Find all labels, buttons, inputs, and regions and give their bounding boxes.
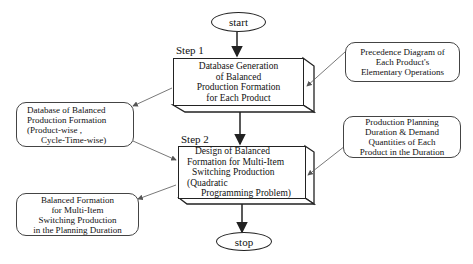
- step2-line: Design of Balanced: [187, 146, 305, 157]
- io-line: in the Planning Duration: [17, 225, 138, 235]
- step2-line: (Quadratic: [187, 178, 305, 189]
- stop-terminal: stop: [216, 232, 272, 251]
- io-line: Switching Production: [17, 215, 138, 225]
- io-line: Production Formation: [27, 115, 133, 125]
- io-line: Balanced Formation: [17, 195, 138, 205]
- start-label: start: [229, 16, 248, 28]
- io-line: Quantities of Each: [344, 137, 460, 147]
- step2-process-box: Design of Balanced Formation for Multi-I…: [178, 146, 306, 199]
- io-line: Duration & Demand: [344, 127, 460, 137]
- io-line: Database of Balanced: [27, 105, 133, 115]
- arrow-step2-to-output: [138, 185, 176, 199]
- io-line: Each Product's: [346, 57, 459, 67]
- step1-line: Production Formation: [174, 82, 303, 93]
- balanced-formation-database: Database of Balanced Production Formatio…: [16, 102, 134, 147]
- io-line: (Product-wise ,: [27, 125, 133, 135]
- step1-process-box: Database Generation of Balanced Producti…: [173, 58, 304, 106]
- step1-line: for Each Product: [174, 93, 303, 104]
- io-line: Elementary Operations: [346, 67, 459, 77]
- start-terminal: start: [211, 12, 266, 32]
- step2-line: Programming Problem): [187, 188, 305, 199]
- stop-label: stop: [235, 236, 253, 248]
- balanced-formation-output: Balanced Formation for Multi-Item Switch…: [16, 193, 139, 236]
- arrow-database-to-step2: [133, 141, 176, 160]
- io-line: Production Planning: [344, 117, 460, 127]
- arrow-step1-to-database: [133, 88, 172, 106]
- precedence-diagram-input: Precedence Diagram of Each Product's Ele…: [345, 42, 460, 82]
- step1-line: of Balanced: [174, 72, 303, 83]
- step2-label: Step 2: [181, 133, 209, 145]
- io-line: for Multi-Item: [17, 205, 138, 215]
- io-line: Product in the Duration: [344, 147, 460, 157]
- step1-label: Step 1: [176, 44, 204, 56]
- io-line: Cycle-Time-wise): [27, 135, 133, 145]
- step2-line: Formation for Multi-Item: [187, 157, 305, 168]
- planning-duration-demand-input: Production Planning Duration & Demand Qu…: [343, 116, 461, 158]
- io-line: Precedence Diagram of: [346, 47, 459, 57]
- step2-line: Switching Production: [187, 167, 305, 178]
- step1-line: Database Generation: [174, 61, 303, 72]
